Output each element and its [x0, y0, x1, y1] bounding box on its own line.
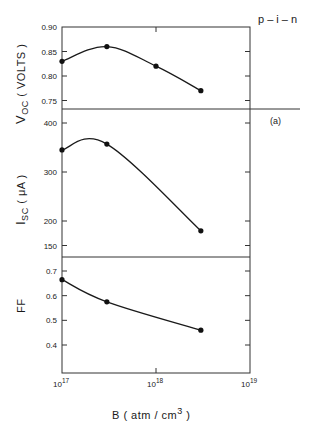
x-axis-title-main: B ( atm / cm [112, 409, 177, 421]
series-line-voc [62, 47, 201, 91]
x-tick-label-exp: 17 [62, 377, 70, 384]
y-tick-label-ff: 0.7 [46, 267, 58, 276]
y-tick-label-ff: 0.6 [46, 292, 58, 301]
y-axis-title-isc-sub: SC [20, 207, 30, 221]
series-line-isc [62, 139, 201, 231]
data-point-voc [104, 44, 109, 49]
x-axis-title-end: ) [183, 409, 191, 421]
series-line-ff [62, 280, 201, 331]
y-axis-title-isc-end: ( μA ) [15, 174, 27, 207]
axis-ticks [62, 27, 250, 373]
x-tick-label: 1017 [53, 377, 70, 389]
panel-label: (a) [270, 116, 281, 126]
y-tick-label-voc: 0.75 [41, 97, 57, 106]
x-tick-label: 1019 [241, 377, 258, 389]
x-tick-label-exp: 18 [156, 377, 164, 384]
data-point-ff [198, 328, 203, 333]
y-tick-label-isc: 150 [44, 242, 58, 251]
y-tick-label-isc: 400 [44, 119, 58, 128]
y-tick-label-isc: 200 [44, 217, 58, 226]
y-tick-label-isc: 300 [44, 168, 58, 177]
data-points [59, 44, 203, 333]
y-tick-label-voc: 0.80 [41, 72, 57, 81]
x-axis-title: B ( atm / cm3 ) [112, 406, 191, 421]
data-point-voc [198, 88, 203, 93]
x-tick-label-exp: 19 [250, 377, 258, 384]
data-point-voc [59, 59, 64, 64]
y-axis-title-voc-main: V [13, 115, 28, 124]
data-point-voc [153, 64, 158, 69]
y-axis-title-voc-sub: OC [20, 100, 30, 115]
data-point-ff [104, 299, 109, 304]
data-point-isc [59, 147, 64, 152]
data-point-isc [104, 141, 109, 146]
data-curves [62, 47, 201, 331]
y-axis-title-isc: ISC ( μA ) [13, 174, 30, 225]
y-tick-label-voc: 0.90 [41, 23, 57, 32]
figure-label: p – i – n [258, 13, 297, 25]
y-axis-title-voc-end: ( VOLTS ) [15, 44, 27, 101]
tick-labels: 1017101810190.900.850.800.75400300200150… [41, 23, 257, 389]
data-point-isc [198, 228, 203, 233]
axes-outer-frame [62, 27, 250, 373]
y-tick-label-ff: 0.5 [46, 316, 58, 325]
y-axis-title-ff: FF [15, 299, 27, 313]
x-tick-label: 1018 [147, 377, 164, 389]
y-tick-label-ff: 0.4 [46, 341, 58, 350]
y-tick-label-voc: 0.85 [41, 48, 57, 57]
y-axis-title-voc: VOC ( VOLTS ) [13, 44, 30, 124]
chart-figure: 1017101810190.900.850.800.75400300200150… [0, 0, 309, 431]
data-point-ff [59, 277, 64, 282]
